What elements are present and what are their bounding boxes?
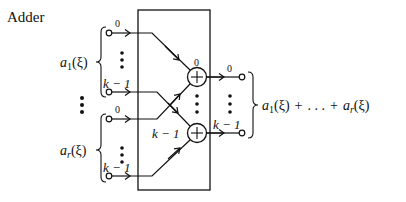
output-sum-label: a1(ξ)+. . .+ar(ξ) (262, 98, 370, 115)
adder-k-1: k − 1 (152, 124, 207, 143)
input-port-a1-0[interactable] (106, 30, 112, 36)
input-label-ar: a (60, 143, 67, 158)
output-brace (248, 72, 258, 138)
input-group-a1: a1(ξ) 0 k − 1 (60, 18, 131, 97)
adder-index-k-1: k − 1 (152, 126, 180, 141)
input-group-ar: ar(ξ) 0 k − 1 (60, 104, 131, 182)
routing-wires (130, 33, 190, 176)
adder-index-0: 0 (194, 57, 199, 68)
diagram-title: Adder (7, 9, 45, 25)
svg-text:a1(ξ): a1(ξ) (60, 55, 88, 72)
output-port-0[interactable] (239, 74, 245, 80)
input-index-ar-0: 0 (115, 104, 120, 115)
input-label-a1: a (60, 55, 67, 70)
output-k-1: k − 1 (207, 117, 245, 136)
input-index-a1-k-1: k − 1 (103, 76, 131, 91)
input-port-ar-0[interactable] (106, 116, 112, 122)
output-index-k-1: k − 1 (213, 117, 241, 132)
input-index-a1-0: 0 (115, 18, 120, 29)
adder-0: 0 (188, 57, 207, 87)
output-index-0: 0 (227, 63, 232, 74)
output-0: 0 (207, 63, 245, 80)
group-dots (80, 96, 84, 100)
input-index-ar-k-1: k − 1 (103, 160, 131, 175)
svg-text:ar(ξ): ar(ξ) (60, 143, 87, 160)
